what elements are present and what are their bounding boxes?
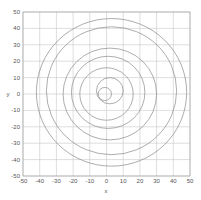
x-tick-label: 30	[153, 178, 160, 184]
x-tick-label: -10	[85, 178, 94, 184]
x-tick-labels: -50-40-30-20-1001020304050	[19, 178, 194, 184]
y-tick-label: 50	[13, 9, 20, 15]
x-tick-label: -20	[69, 178, 78, 184]
y-tick-label: 0	[17, 91, 21, 97]
circle-4	[71, 56, 144, 128]
x-tick-label: -50	[19, 178, 28, 184]
x-axis-label: x	[105, 188, 108, 194]
y-tick-label: 40	[13, 25, 20, 31]
y-tick-label: -50	[11, 173, 20, 179]
grid-lines	[23, 12, 190, 176]
y-tick-label: 30	[13, 42, 20, 48]
x-tick-label: -40	[35, 178, 44, 184]
y-tick-label: -30	[11, 140, 20, 146]
circle-2	[46, 27, 176, 155]
y-tick-label: -20	[11, 124, 20, 130]
x-tick-label: 50	[187, 178, 194, 184]
x-tick-label: 10	[120, 178, 127, 184]
y-tick-label: 20	[13, 58, 20, 64]
x-tick-label: 0	[105, 178, 109, 184]
y-axis-label: y	[7, 91, 10, 97]
x-tick-label: 40	[170, 178, 177, 184]
x-tick-label: -30	[52, 178, 61, 184]
y-tick-labels: -50-40-30-20-1001020304050	[11, 9, 20, 179]
y-tick-label: 10	[13, 75, 20, 81]
y-tick-label: -40	[11, 157, 20, 163]
circles-plot: -50-40-30-20-1001020304050 -50-40-30-20-…	[0, 0, 201, 200]
circle-series	[36, 19, 186, 167]
y-tick-label: -10	[11, 107, 20, 113]
x-tick-label: 20	[137, 178, 144, 184]
circle-6	[96, 78, 123, 104]
